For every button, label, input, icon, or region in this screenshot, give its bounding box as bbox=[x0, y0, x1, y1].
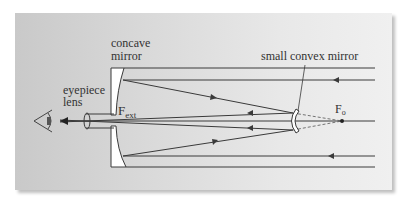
eye-icon bbox=[34, 110, 52, 132]
label-convex-mirror: small convex mirror bbox=[261, 49, 358, 63]
label-concave-1: concave bbox=[111, 36, 150, 50]
focal-point-fo bbox=[340, 119, 344, 123]
telescope-diagram: concave mirror eyepiece lens small conve… bbox=[0, 0, 411, 202]
label-f-o: Fo bbox=[335, 102, 346, 117]
label-eyepiece-2: lens bbox=[63, 95, 83, 109]
label-f-ext: Fext bbox=[118, 103, 137, 120]
label-concave-2: mirror bbox=[111, 49, 142, 63]
